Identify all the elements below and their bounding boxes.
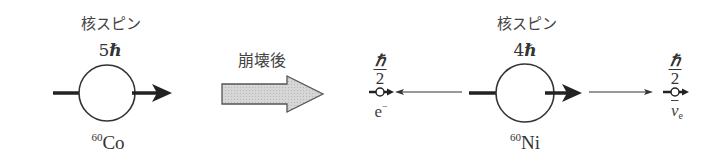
hbar-symbol: ℏ <box>109 40 121 60</box>
electron-particle <box>369 88 394 96</box>
antineutrino-momentum-arrow <box>589 89 653 95</box>
electron-charge: − <box>382 101 388 112</box>
hbar-symbol: ℏ <box>524 40 536 60</box>
antineutrino-symbol: ν <box>671 101 679 120</box>
co60-nucleus <box>53 65 172 121</box>
ni-spin-value: 4ℏ <box>513 40 536 60</box>
electron-symbol: e <box>374 102 382 121</box>
ni-spin-heading: 核スピン <box>497 12 557 33</box>
electron-spin-arrow-icon <box>387 89 394 96</box>
decay-arrow-icon <box>222 76 323 112</box>
antineutrino-spin-fraction: ℏ 2 <box>669 53 682 87</box>
ni-nucleus-label: 60Ni <box>510 131 540 154</box>
antineutrino-spin-arrow-icon <box>682 89 689 96</box>
ni-mass-number: 60 <box>510 131 521 143</box>
after-decay-label: 崩壊後 <box>238 47 286 71</box>
electron-label: e− <box>374 101 387 122</box>
fraction-denominator: 2 <box>669 71 682 87</box>
ni60-nucleus <box>469 64 582 122</box>
antineutrino-particle <box>663 88 689 96</box>
co-mass-number: 60 <box>91 131 102 143</box>
antineutrino-flavor: e <box>679 110 683 121</box>
antineutrino-label: νe <box>671 101 683 121</box>
co-spin-heading: 核スピン <box>81 12 141 33</box>
co-symbol: Co <box>102 132 124 153</box>
co-nucleus-circle <box>79 65 135 121</box>
co-spin-number: 5 <box>98 40 109 60</box>
co-nucleus-label: 60Co <box>91 131 124 154</box>
fraction-numerator: ℏ <box>669 53 682 68</box>
fraction-denominator: 2 <box>374 71 387 87</box>
ni-spin-number: 4 <box>513 40 524 60</box>
electron-momentum-arrow <box>395 89 462 95</box>
co-spin-value: 5ℏ <box>98 40 121 60</box>
ni-symbol: Ni <box>521 132 540 153</box>
electron-spin-fraction: ℏ 2 <box>374 53 387 87</box>
fraction-numerator: ℏ <box>374 53 387 68</box>
